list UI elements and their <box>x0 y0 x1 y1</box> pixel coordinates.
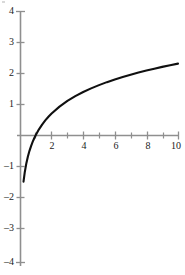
y-axis-label-neg3: –3 <box>0 223 14 233</box>
y-axis-label-neg4: –4 <box>0 257 14 267</box>
plot-canvas <box>0 0 185 275</box>
x-axis-label-10: 10 <box>168 141 184 151</box>
y-axis-label-neg2: –2 <box>0 192 14 202</box>
y-axis-label-4: 4 <box>0 6 14 16</box>
x-axis-label-6: 6 <box>108 141 124 151</box>
line-chart: 4 3 2 1 –1 –2 –3 –4 2 4 6 8 10 <box>0 0 185 275</box>
y-axis-label-1: 1 <box>0 99 14 109</box>
axes-group <box>17 11 179 266</box>
y-axis-label-3: 3 <box>0 37 14 47</box>
x-axis-label-8: 8 <box>140 141 156 151</box>
x-axis-label-4: 4 <box>76 141 92 151</box>
y-axis-label-2: 2 <box>0 68 14 78</box>
x-axis-label-2: 2 <box>44 141 60 151</box>
curve-ln-x <box>24 64 178 182</box>
y-axis-label-neg1: –1 <box>0 161 14 171</box>
scan-speck-topleft <box>2 1 5 3</box>
